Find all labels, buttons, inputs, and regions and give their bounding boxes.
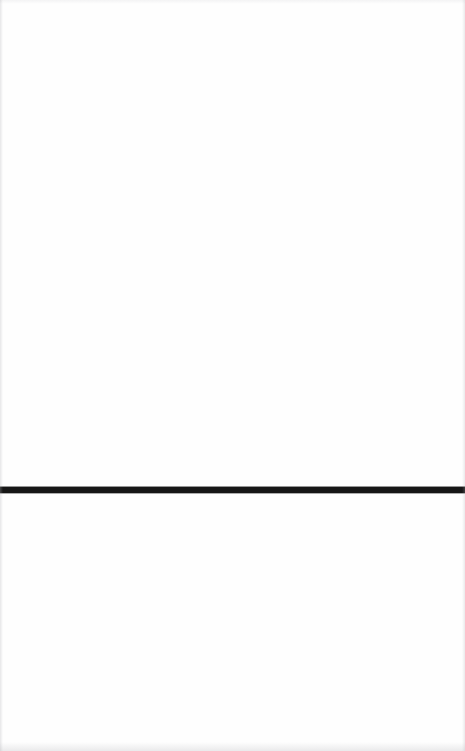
lower-blank-region bbox=[0, 493, 465, 751]
scanned-page bbox=[0, 0, 465, 751]
upper-blank-region bbox=[0, 0, 465, 487]
